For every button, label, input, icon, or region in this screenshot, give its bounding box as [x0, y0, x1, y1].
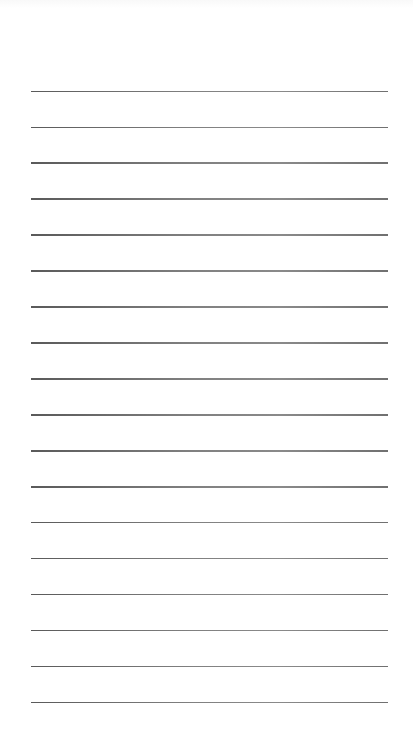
ruled-line [31, 450, 388, 452]
ruled-line [31, 342, 388, 344]
ruled-line [31, 306, 388, 308]
ruled-line [31, 270, 388, 272]
ruled-line [31, 162, 388, 164]
ruled-line [31, 234, 388, 236]
lined-paper-sheet [0, 0, 413, 751]
ruled-line [31, 630, 388, 632]
ruled-line [31, 558, 388, 560]
ruled-line [31, 378, 388, 380]
ruled-line [31, 486, 388, 488]
ruled-line [31, 666, 388, 668]
ruled-line [31, 594, 388, 596]
ruled-line [31, 702, 388, 704]
ruled-line [31, 414, 388, 416]
ruled-line [31, 198, 388, 200]
ruled-line [31, 522, 388, 524]
ruled-line [31, 127, 388, 129]
ruled-line [31, 91, 388, 93]
